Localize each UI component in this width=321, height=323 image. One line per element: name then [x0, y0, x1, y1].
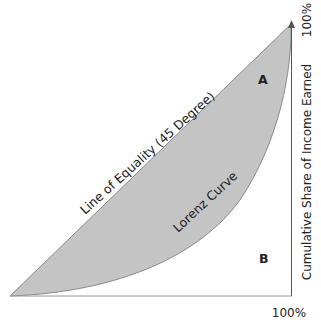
- lorenz-diagram: Line of Equality (45 Degree) Lorenz Curv…: [0, 0, 321, 323]
- y-axis-label: Cumulative Share of Income Earned: [300, 64, 314, 280]
- y-axis-arrow-icon: [288, 20, 295, 28]
- region-a-label: A: [258, 72, 268, 87]
- y-max-label: 100%: [300, 3, 314, 37]
- region-b-label: B: [259, 251, 269, 266]
- x-max-label: 100%: [272, 306, 306, 320]
